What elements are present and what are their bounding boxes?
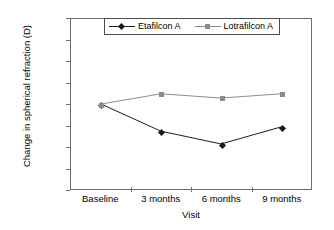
data-point-marker (159, 92, 164, 97)
data-point-marker (220, 96, 225, 101)
x-axis-tick-mark (191, 187, 192, 192)
data-point-marker (158, 129, 165, 136)
legend-swatch (109, 22, 135, 31)
chart-legend: Etafilcon ALotrafilcon A (104, 18, 280, 35)
legend-item: Lotrafilcon A (195, 21, 274, 32)
x-axis-tick-labels: Baseline3 months6 months9 months (70, 192, 312, 208)
y-axis-tick-mark (66, 190, 70, 191)
series-markers (71, 19, 311, 189)
legend-item: Etafilcon A (109, 21, 181, 32)
data-point-marker (219, 142, 226, 149)
chart-figure: Change in spherical refraction (D) 1.000… (0, 0, 334, 230)
square-marker-icon (205, 24, 210, 29)
legend-label: Etafilcon A (138, 21, 181, 32)
data-point-marker (279, 125, 286, 132)
x-axis-tick-mark (252, 187, 253, 192)
data-point-marker (99, 103, 104, 108)
plot-area (70, 18, 312, 190)
y-axis-title: Change in spherical refraction (D) (20, 1, 34, 191)
x-axis-tick-label: 9 months (242, 192, 322, 206)
legend-label: Lotrafilcon A (224, 21, 274, 32)
legend-swatch (195, 22, 221, 31)
data-point-marker (280, 92, 285, 97)
x-axis-title: Visit (70, 209, 312, 221)
x-axis-tick-mark (131, 187, 132, 192)
diamond-marker-icon (118, 23, 125, 30)
